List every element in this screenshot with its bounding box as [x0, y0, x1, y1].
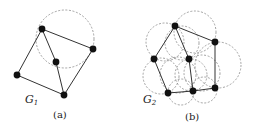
edge-right-bottom — [64, 49, 93, 95]
graph-edges — [154, 26, 215, 93]
figure-a-graph-g1: G1 (a) — [14, 10, 97, 120]
node-top — [39, 26, 46, 33]
node-right — [212, 39, 219, 46]
node-bottom-middle — [190, 88, 197, 95]
edge-left-bottom-left — [154, 59, 168, 93]
dashed-circles — [36, 10, 94, 68]
dashed-circle — [36, 10, 94, 68]
caption-b: (b) — [185, 111, 199, 122]
caption-a: (a) — [53, 109, 67, 120]
edge-center-bottom — [56, 62, 64, 95]
node-center — [53, 59, 60, 66]
edge-top-left — [17, 29, 42, 75]
edge-left-bottom — [17, 75, 64, 95]
graph-nodes — [14, 26, 97, 99]
node-bottom-right — [212, 85, 219, 92]
node-bottom-left — [165, 90, 172, 97]
edge-top-left — [154, 26, 175, 59]
node-top — [172, 23, 179, 30]
node-bottom — [61, 92, 68, 99]
node-right — [90, 46, 97, 53]
graph-nodes — [151, 23, 219, 97]
node-center — [186, 56, 193, 63]
diagram-canvas: G1 (a) G2 (b) — [0, 0, 253, 128]
node-left — [151, 56, 158, 63]
node-left — [14, 72, 21, 79]
graph-label-g2: G2 — [143, 93, 157, 107]
figure-b-graph-g2: G2 (b) — [143, 11, 241, 122]
graph-label-g1: G1 — [25, 93, 38, 107]
